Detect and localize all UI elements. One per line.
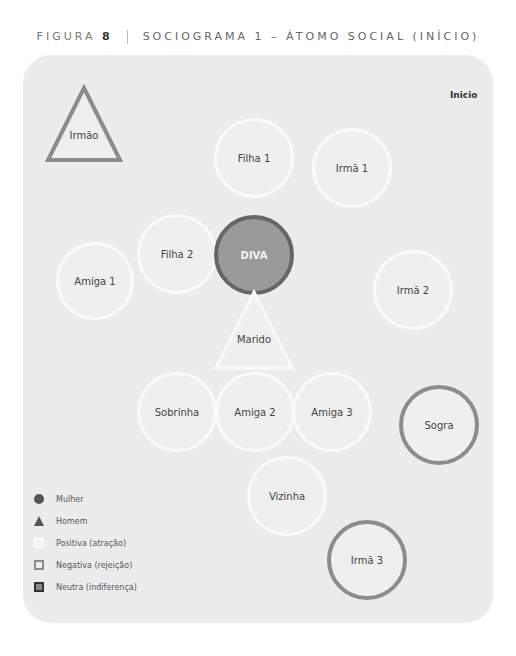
figure-title: FIGURA 8 SOCIOGRAMA 1 – ÁTOMO SOCIAL (IN… <box>0 30 516 44</box>
node-filha-2: Filha 2 <box>137 214 217 294</box>
node-irma-2: Irmã 2 <box>373 250 453 330</box>
legend-item-homem: Homem <box>34 510 137 532</box>
legend-item-positiva: Positiva (atração) <box>34 532 137 554</box>
legend-label: Mulher <box>56 495 83 504</box>
figure-number: 8 <box>102 30 113 43</box>
figure-label: FIGURA <box>37 30 96 43</box>
node-sogra: Sogra <box>399 385 479 465</box>
node-vizinha: Vizinha <box>247 456 327 536</box>
legend-item-neutra: Neutra (indiferença) <box>34 576 137 598</box>
node-irma-3: Irmã 3 <box>327 520 407 600</box>
node-label-irmao: Irmão <box>44 130 124 141</box>
node-amiga-1: Amiga 1 <box>56 242 134 320</box>
title-divider <box>127 30 128 44</box>
triangle-icon <box>34 516 44 526</box>
stage-tag: Inicio <box>450 90 477 100</box>
legend-item-negativa: Negativa (rejeição) <box>34 554 137 576</box>
legend-item-mulher: Mulher <box>34 488 137 510</box>
figure-heading: SOCIOGRAMA 1 – ÁTOMO SOCIAL (INÍCIO) <box>143 30 480 43</box>
legend: Mulher Homem Positiva (atração) Negativa… <box>34 488 137 598</box>
negative-square-icon <box>34 560 44 570</box>
node-filha-1: Filha 1 <box>214 118 294 198</box>
node-amiga-2: Amiga 2 <box>215 372 295 452</box>
node-label-marido: Marido <box>212 334 296 345</box>
legend-label: Homem <box>56 517 87 526</box>
triangle-node-irmao <box>44 84 124 164</box>
legend-label: Negativa (rejeição) <box>56 561 132 570</box>
node-sobrinha: Sobrinha <box>137 372 217 452</box>
node-amiga-3: Amiga 3 <box>292 372 372 452</box>
positive-square-icon <box>34 538 44 548</box>
neutral-square-icon <box>34 582 44 592</box>
circle-icon <box>34 494 44 504</box>
legend-label: Neutra (indiferença) <box>56 583 137 592</box>
legend-label: Positiva (atração) <box>56 539 126 548</box>
node-diva: DIVA <box>214 215 294 295</box>
node-irma-1: Irmã 1 <box>312 128 392 208</box>
triangle-node-marido <box>212 288 296 372</box>
